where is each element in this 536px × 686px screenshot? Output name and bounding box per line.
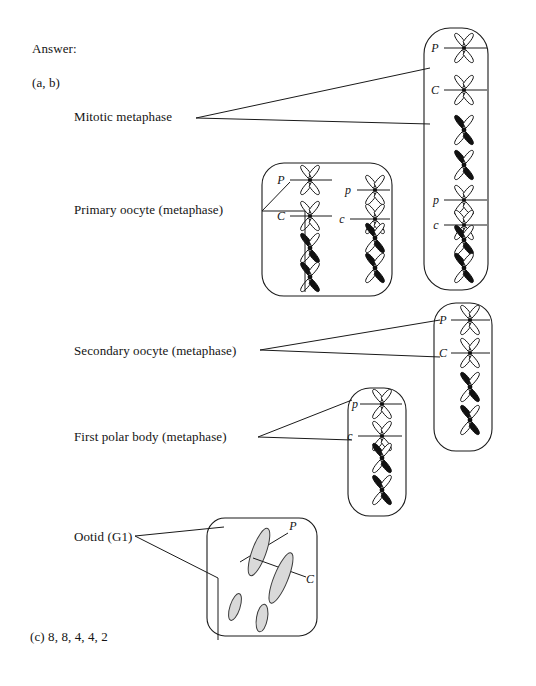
leader-ootid	[135, 527, 224, 640]
chromosome-unlabeled	[461, 405, 480, 434]
leader-primary-oocyte	[262, 182, 305, 292]
ootid-marker-C: C	[306, 572, 315, 586]
chromosome-marker-P: P	[276, 173, 285, 187]
ootid-chromosome-C	[264, 550, 297, 605]
ootid-marker-P: P	[288, 519, 297, 533]
ootid-chromosome-P	[244, 526, 274, 578]
chromosome-unlabeled	[455, 115, 474, 144]
chromosome-unlabeled	[366, 223, 385, 252]
answer-heading: Answer:	[32, 42, 77, 57]
chromosome-marker-P: P	[430, 41, 439, 55]
chromosome-unlabeled	[373, 443, 392, 472]
chromosome-unlabeled	[301, 233, 320, 262]
chromosome-marker-c: c	[339, 212, 345, 226]
cell-membrane	[424, 28, 488, 290]
chromosome-P	[301, 165, 320, 194]
chromosome-unlabeled	[461, 372, 480, 401]
chromosome-p	[455, 185, 474, 214]
chromosome-p	[366, 175, 385, 204]
chromosome-P	[455, 33, 474, 62]
chromosome-marker-c: c	[433, 218, 439, 232]
ootid-marker-line-C	[253, 558, 306, 577]
cell-membrane	[348, 388, 406, 516]
chromosome-unlabeled	[301, 262, 320, 291]
ootid-marker-line-P	[240, 533, 288, 562]
chromosome-marker-c: c	[347, 429, 353, 443]
cell-membrane	[262, 163, 392, 296]
chromosome-c	[455, 210, 474, 239]
figure-page: Answer: (a, b) (c) 8, 8, 4, 4, 2 Mitotic…	[0, 0, 536, 686]
ootid-cell: P C	[207, 518, 317, 636]
label-secondary-oocyte: Secondary oocyte (metaphase)	[74, 344, 236, 359]
chromosome-C	[461, 338, 480, 367]
chromosome-C	[301, 201, 320, 230]
part-c-answer-line: (c) 8, 8, 4, 4, 2	[30, 630, 108, 645]
chromosome-marker-C: C	[439, 346, 448, 360]
chromosome-marker-p: p	[344, 183, 351, 197]
chromosome-C	[455, 75, 474, 104]
chromosome-P	[461, 305, 480, 334]
chromosome-unlabeled	[455, 225, 474, 254]
label-ootid: Ootid (G1)	[74, 530, 132, 545]
leader-mitotic-metaphase	[196, 68, 430, 124]
chromosome-unlabeled	[455, 150, 474, 179]
label-primary-oocyte: Primary oocyte (metaphase)	[74, 203, 223, 218]
mitotic-metaphase-cell: P C p c	[424, 28, 488, 290]
leader-secondary-oocyte	[260, 320, 440, 357]
chromosome-marker-p: p	[432, 193, 439, 207]
cell-membrane	[434, 303, 492, 451]
chromosome-p	[373, 389, 392, 418]
chromosome-marker-p: p	[351, 397, 358, 411]
part-ab-label: (a, b)	[32, 76, 60, 91]
secondary-oocyte-cell: P C	[434, 303, 492, 451]
cell-membrane	[207, 518, 317, 636]
label-first-polar-body: First polar body (metaphase)	[74, 430, 227, 445]
first-polar-body-cell: p c	[347, 388, 406, 516]
leader-first-polar-body	[258, 400, 352, 440]
chromosome-marker-P: P	[438, 313, 447, 327]
chromosome-marker-C: C	[431, 83, 440, 97]
primary-oocyte-cell: P C p c	[262, 163, 392, 296]
chromosome-unlabeled	[366, 253, 385, 282]
chromosome-marker-C: C	[277, 209, 286, 223]
chromosome-unlabeled	[455, 253, 474, 282]
chromosome-c	[373, 421, 392, 450]
label-mitotic-metaphase: Mitotic metaphase	[74, 110, 172, 125]
chromosome-c	[366, 204, 385, 233]
ootid-chromosome-unlabeled	[254, 603, 270, 632]
ootid-chromosome-unlabeled	[226, 592, 244, 622]
chromosome-unlabeled	[373, 475, 392, 504]
